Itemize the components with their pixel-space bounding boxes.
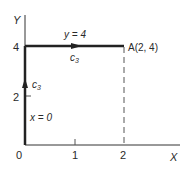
vertical-path-equation: x = 0	[29, 112, 52, 123]
origin-label: 0	[16, 149, 22, 161]
x-axis-label: X	[169, 151, 178, 163]
y-axis-label: Y	[13, 14, 21, 26]
horizontal-path-equation: y = 4	[63, 29, 86, 40]
y-tick-label-2: 2	[13, 91, 19, 103]
arrow-up-icon	[22, 78, 28, 88]
x-tick-label-1: 1	[72, 149, 78, 161]
point-a-label: A(2, 4)	[128, 42, 158, 53]
contour-diagram: Y X 0 1 2 2 4 y = 4 x = 0 c3 c3 A(2, 4)	[0, 0, 183, 171]
arrow-right-icon	[71, 43, 82, 49]
x-tick-label-2: 2	[120, 149, 126, 161]
vertical-curve-label: c3	[32, 79, 41, 91]
horizontal-curve-label: c3	[70, 52, 79, 64]
y-tick-label-4: 4	[13, 41, 19, 53]
